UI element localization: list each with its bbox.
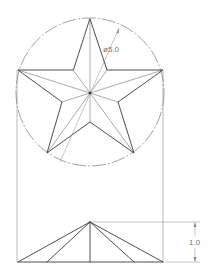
elevation-view [18,222,163,262]
diameter-label: ø5.0 [103,45,120,54]
diameter-arrow-icon [117,28,120,34]
center-point [89,92,92,95]
height-dimension: 1.0 [92,222,201,262]
technical-drawing: ø5.0 1.0 [0,0,210,276]
plan-view: ø5.0 [16,18,164,166]
dim-arrow-down-icon [194,257,197,262]
dim-arrow-up-icon [194,222,197,227]
height-label: 1.0 [189,238,201,247]
